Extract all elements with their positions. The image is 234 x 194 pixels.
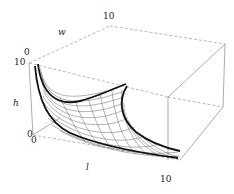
surface-mesh bbox=[40, 68, 180, 157]
h-axis-label: h bbox=[13, 98, 19, 108]
w-tick-min: 0 bbox=[24, 47, 30, 57]
boundary-curves bbox=[35, 64, 180, 158]
l-tick-max: 10 bbox=[160, 174, 172, 184]
l-axis-label: l bbox=[86, 162, 89, 172]
surface-plot: w 10 0 10 h 0 0 l 10 bbox=[0, 0, 234, 194]
curve-right bbox=[122, 86, 180, 151]
h-tick-max: 10 bbox=[14, 57, 26, 67]
w-axis-label: w bbox=[58, 27, 66, 37]
w-tick-max: 10 bbox=[103, 11, 115, 21]
l-tick-min: 0 bbox=[31, 135, 37, 145]
